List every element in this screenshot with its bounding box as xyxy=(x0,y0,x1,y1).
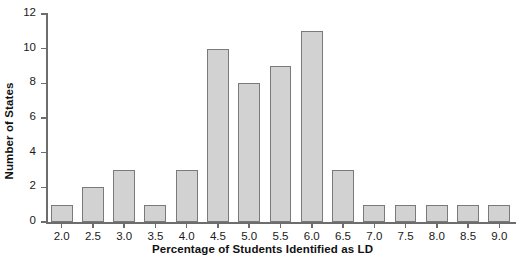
histogram-bar xyxy=(270,66,292,222)
histogram-bar xyxy=(363,205,385,222)
x-tick-label: 5.5 xyxy=(273,230,289,242)
histogram-bar xyxy=(457,205,479,222)
x-tick-mark xyxy=(499,223,501,228)
x-tick-label: 5.0 xyxy=(241,230,257,242)
y-tick-label: 4 xyxy=(0,145,36,157)
histogram-chart: Number of States 2.02.53.03.54.04.55.05.… xyxy=(0,0,525,262)
x-tick-mark xyxy=(311,223,313,228)
x-tick-label: 7.5 xyxy=(398,230,414,242)
histogram-bar xyxy=(176,170,198,222)
x-tick-label: 4.5 xyxy=(210,230,226,242)
histogram-bar xyxy=(488,205,510,222)
x-tick-label: 2.0 xyxy=(54,230,70,242)
x-tick-label: 3.5 xyxy=(147,230,163,242)
x-tick-mark xyxy=(280,223,282,228)
y-tick-mark xyxy=(41,187,46,189)
histogram-bar xyxy=(207,49,229,222)
x-tick-label: 4.0 xyxy=(179,230,195,242)
x-tick-label: 2.5 xyxy=(85,230,101,242)
x-tick-label: 6.5 xyxy=(335,230,351,242)
histogram-bar xyxy=(51,205,73,222)
y-tick-label: 2 xyxy=(0,179,36,191)
x-tick-label: 6.0 xyxy=(304,230,320,242)
y-tick-mark xyxy=(41,152,46,154)
histogram-bar xyxy=(238,83,260,222)
x-axis-ticks: 2.02.53.03.54.04.55.05.56.06.57.07.58.08… xyxy=(46,223,516,245)
x-tick-mark xyxy=(155,223,157,228)
y-tick-mark xyxy=(41,117,46,119)
y-tick-label: 10 xyxy=(0,41,36,53)
histogram-bar xyxy=(144,205,166,222)
x-tick-mark xyxy=(61,223,63,228)
histogram-bar xyxy=(332,170,354,222)
y-tick-mark xyxy=(41,221,46,223)
x-tick-label: 8.0 xyxy=(429,230,445,242)
histogram-bar xyxy=(113,170,135,222)
histogram-bar xyxy=(301,31,323,222)
y-tick-label: 8 xyxy=(0,75,36,87)
x-tick-mark xyxy=(248,223,250,228)
x-tick-mark xyxy=(405,223,407,228)
histogram-bar xyxy=(82,187,104,222)
histogram-bar xyxy=(426,205,448,222)
x-tick-mark xyxy=(123,223,125,228)
y-tick-label: 12 xyxy=(0,6,36,18)
x-axis-title: Percentage of Students Identified as LD xyxy=(0,243,525,255)
x-tick-mark xyxy=(217,223,219,228)
plot-area xyxy=(46,14,515,222)
y-tick-mark xyxy=(41,13,46,15)
x-tick-mark xyxy=(436,223,438,228)
x-tick-label: 9.0 xyxy=(491,230,507,242)
x-tick-mark xyxy=(342,223,344,228)
y-tick-mark xyxy=(41,48,46,50)
x-tick-label: 7.0 xyxy=(366,230,382,242)
histogram-bar xyxy=(395,205,417,222)
x-tick-label: 8.5 xyxy=(460,230,476,242)
y-tick-label: 6 xyxy=(0,110,36,122)
x-tick-mark xyxy=(374,223,376,228)
x-tick-mark xyxy=(467,223,469,228)
x-tick-label: 3.0 xyxy=(116,230,132,242)
x-tick-mark xyxy=(186,223,188,228)
y-tick-mark xyxy=(41,83,46,85)
x-tick-mark xyxy=(92,223,94,228)
y-tick-label: 0 xyxy=(0,214,36,226)
